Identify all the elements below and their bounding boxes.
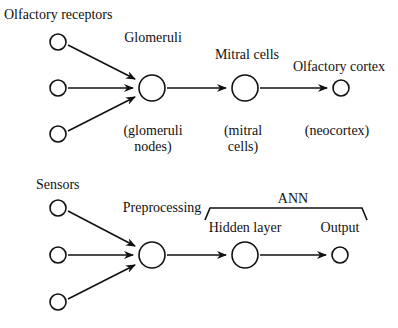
sensor-node-2 bbox=[50, 247, 66, 263]
sensor-node-1 bbox=[50, 200, 66, 216]
glomeruli-node bbox=[139, 75, 165, 101]
receptors-label: Olfactory receptors bbox=[4, 7, 112, 23]
ann-bracket bbox=[205, 208, 367, 220]
mitral-node bbox=[232, 75, 258, 101]
output-node bbox=[332, 247, 348, 263]
glomeruli-sub-line2: nodes) bbox=[134, 139, 171, 155]
glomeruli-sub-line1: (glomeruli bbox=[123, 123, 182, 139]
receptor-node-2 bbox=[50, 80, 66, 96]
preprocessing-node bbox=[139, 242, 165, 268]
mitral-sub-line1: (mitral bbox=[224, 123, 262, 139]
sensors-label: Sensors bbox=[36, 177, 80, 193]
olfactory-cortex-label: Olfactory cortex bbox=[293, 59, 385, 75]
output-label: Output bbox=[321, 220, 360, 236]
cortex-node bbox=[333, 80, 349, 96]
sensor-node-3 bbox=[50, 294, 66, 310]
hidden-layer-label: Hidden layer bbox=[209, 220, 282, 236]
neocortex-sub: (neocortex) bbox=[305, 123, 370, 139]
receptor-node-3 bbox=[50, 126, 66, 142]
mitral-sub-line2: cells) bbox=[228, 139, 258, 155]
ann-label: ANN bbox=[278, 191, 308, 207]
mitral-cells-label: Mitral cells bbox=[215, 47, 279, 63]
preprocessing-label: Preprocessing bbox=[123, 200, 202, 216]
receptor-node-1 bbox=[50, 34, 66, 50]
hidden-layer-node bbox=[232, 242, 258, 268]
diagram-canvas bbox=[0, 0, 398, 328]
glomeruli-label: Glomeruli bbox=[124, 30, 182, 46]
